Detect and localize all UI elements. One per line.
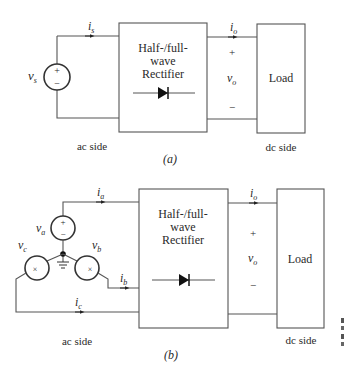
caption-a: (a): [163, 152, 177, 166]
voltage-label-va: va: [36, 221, 45, 237]
rectifier-label-line1: Half-/full-: [158, 207, 207, 221]
ground-icon: [57, 262, 69, 268]
output-minus-sign: −: [250, 279, 256, 291]
phase-b-wire: [98, 273, 139, 288]
cropped-text-fragments: [341, 318, 344, 346]
output-plus-sign: +: [229, 46, 235, 58]
ac-side-label-b: ac side: [62, 335, 92, 347]
current-label-ic: ic: [75, 295, 82, 311]
output-current-label-io: io: [250, 186, 257, 202]
source-plus-sign: +: [54, 65, 60, 76]
load-label-a: Load: [269, 71, 294, 85]
rectifier-label-line3: Rectifier: [142, 67, 184, 81]
dc-side-label-a: dc side: [266, 141, 297, 153]
source-minus-sign: −: [54, 78, 60, 89]
neutral-to-b: [63, 254, 77, 261]
phase-a-plus-sign: +: [60, 217, 65, 227]
load-label-b: Load: [288, 252, 313, 266]
source-lead-bottom-a: [57, 90, 119, 118]
phase-a-minus-sign: −: [60, 229, 65, 239]
phase-c-polarity-mark: ×: [33, 265, 38, 274]
output-voltage-label-vo: vo: [248, 251, 257, 267]
phase-b-polarity-mark: ×: [88, 265, 93, 274]
source-voltage-label-vs: vs: [28, 68, 37, 85]
rectifier-label-line1: Half-/full-: [138, 41, 187, 55]
output-minus-sign: −: [229, 101, 235, 113]
output-voltage-label-vo: vo: [227, 71, 236, 87]
rectifier-label-line2: wave: [150, 54, 175, 68]
voltage-label-vc: vc: [18, 238, 27, 254]
output-plus-sign: +: [250, 227, 256, 239]
current-label-ia: ia: [97, 185, 104, 201]
current-label-ib: ib: [120, 271, 127, 287]
ac-side-label-a: ac side: [77, 140, 107, 152]
rectifier-label-line3: Rectifier: [162, 233, 204, 247]
voltage-label-vb: vb: [92, 238, 101, 254]
caption-b: (b): [164, 348, 178, 362]
neutral-to-c: [47, 254, 63, 261]
figure-b: ia + − va × vc ic × vb ib Half-/full- wa…: [16, 185, 324, 362]
figure-a: is + − vs Half-/full- wave Rectifier io …: [28, 19, 305, 166]
current-label-is: is: [88, 19, 94, 35]
dc-side-label-b: dc side: [286, 334, 317, 346]
rectifier-label-line2: wave: [170, 220, 195, 234]
phase-a-wire: [63, 202, 139, 216]
rectifier-block-diagrams: is + − vs Half-/full- wave Rectifier io …: [0, 0, 345, 377]
output-current-label-io: io: [230, 20, 237, 36]
